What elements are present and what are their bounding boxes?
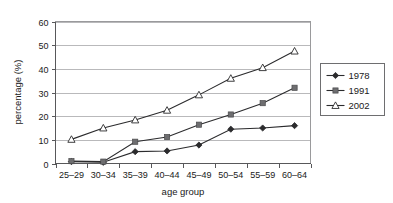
data-series [68,47,298,165]
y-tick-label: 0 [43,160,48,170]
x-axis-category-label: 35–39 [123,170,148,180]
x-axis-category-label: 40–44 [155,170,180,180]
data-point-marker [228,126,234,132]
x-axis-category-label: 55–59 [250,170,275,180]
y-axis-ticks: 0102030405060 [38,18,55,170]
y-axis-title: percentage (%) [12,60,23,125]
legend-label-1978: 1978 [349,70,370,81]
plot-frame [56,22,311,164]
data-point-marker [291,47,298,54]
data-point-marker [196,142,202,148]
data-point-marker [260,101,265,106]
x-axis-labels: 25–2930–3435–3940–4445–4950–5455–5960–64 [59,170,307,180]
line-chart: 0102030405060 25–2930–3435–3940–4445–495… [0,0,393,203]
x-axis-title: age group [162,186,205,197]
series-line-1991 [71,88,294,162]
legend-label-2002: 2002 [349,100,370,111]
data-point-marker [292,85,297,90]
x-axis-category-label: 50–54 [218,170,243,180]
x-axis-ticks [57,164,312,168]
y-tick-label: 60 [38,18,48,28]
data-point-marker [164,134,169,139]
data-point-marker [260,125,266,131]
data-point-marker [164,148,170,154]
data-point-marker [228,112,233,117]
chart-container: 0102030405060 25–2930–3435–3940–4445–495… [0,0,393,203]
x-axis-category-label: 30–34 [91,170,116,180]
data-point-marker [291,123,297,129]
gridlines [56,23,311,141]
x-axis-category-label: 45–49 [186,170,211,180]
data-point-marker [163,107,170,114]
y-tick-label: 50 [38,41,48,51]
y-tick-label: 20 [38,112,48,122]
data-point-marker [333,88,338,93]
y-tick-label: 40 [38,65,48,75]
data-point-marker [132,149,138,155]
data-point-marker [259,64,266,71]
x-axis-category-label: 60–64 [282,170,307,180]
y-tick-label: 30 [38,89,48,99]
data-point-marker [196,122,201,127]
data-point-marker [101,159,106,164]
x-axis-category-label: 25–29 [59,170,84,180]
legend-label-1991: 1991 [349,85,370,96]
data-point-marker [69,159,74,164]
y-tick-label: 10 [38,136,48,146]
data-point-marker [195,91,202,98]
data-point-marker [133,139,138,144]
chart-legend: 197819912002 [321,64,385,116]
plot-area-border [56,22,311,164]
